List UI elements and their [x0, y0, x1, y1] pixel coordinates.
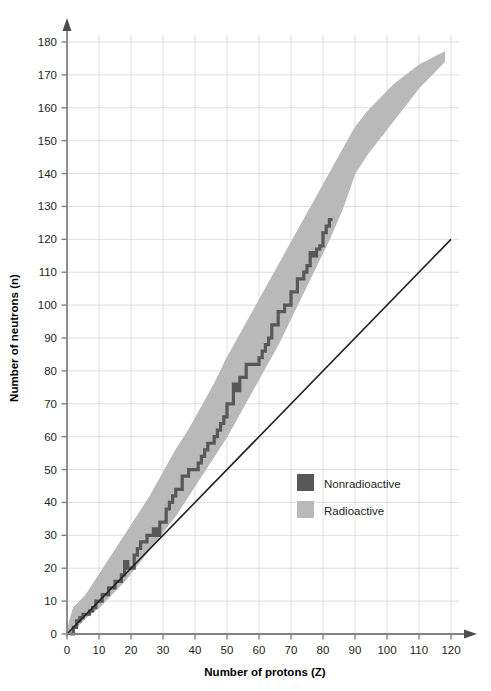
y-tick-label: 100	[38, 299, 57, 311]
y-tick-label: 20	[44, 562, 57, 574]
x-axis-title: Number of protons (Z)	[204, 666, 326, 678]
nuclide-stability-chart: 0102030405060708090100110120010203040506…	[0, 0, 491, 691]
x-tick-label: 20	[125, 644, 138, 656]
x-tick-label: 100	[377, 644, 396, 656]
chart-legend: NonradioactiveRadioactive	[297, 474, 401, 518]
x-axis-arrowhead	[464, 630, 477, 639]
y-tick-label: 160	[38, 102, 57, 114]
y-tick-label: 180	[38, 36, 57, 48]
y-tick-label: 70	[44, 398, 57, 410]
y-axis-ticks: 0102030405060708090100110120130140150160…	[38, 36, 67, 640]
x-tick-label: 30	[157, 644, 170, 656]
x-tick-label: 0	[64, 644, 70, 656]
x-tick-label: 40	[189, 644, 202, 656]
legend-label: Nonradioactive	[324, 478, 401, 490]
x-tick-label: 70	[285, 644, 298, 656]
x-tick-label: 90	[349, 644, 362, 656]
y-tick-label: 130	[38, 200, 57, 212]
y-tick-label: 170	[38, 69, 57, 81]
y-axis-title: Number of neutrons (n)	[8, 274, 20, 402]
y-tick-label: 120	[38, 233, 57, 245]
y-tick-label: 90	[44, 332, 57, 344]
legend-swatch	[297, 501, 314, 518]
y-tick-label: 110	[39, 266, 57, 278]
y-tick-label: 80	[44, 365, 57, 377]
y-axis-arrowhead	[63, 18, 72, 31]
y-tick-label: 0	[51, 628, 57, 640]
x-tick-label: 110	[410, 644, 428, 656]
x-tick-label: 50	[221, 644, 234, 656]
y-tick-label: 10	[44, 595, 57, 607]
x-tick-label: 10	[93, 644, 106, 656]
y-tick-label: 60	[44, 431, 57, 443]
legend-swatch	[297, 474, 314, 491]
x-tick-label: 60	[253, 644, 266, 656]
chart-plot-area: 0102030405060708090100110120010203040506…	[0, 0, 491, 691]
x-axis-ticks: 0102030405060708090100110120	[64, 634, 461, 656]
y-tick-label: 50	[44, 464, 57, 476]
y-tick-label: 140	[38, 168, 57, 180]
y-tick-label: 30	[44, 529, 57, 541]
y-tick-label: 40	[44, 496, 57, 508]
y-tick-label: 150	[38, 135, 57, 147]
x-tick-label: 80	[317, 644, 330, 656]
radioactive-band-region	[67, 52, 445, 634]
legend-label: Radioactive	[324, 505, 384, 517]
x-tick-label: 120	[441, 644, 460, 656]
